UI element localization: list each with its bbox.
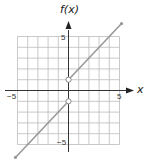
function-graph xyxy=(0,0,151,164)
axes xyxy=(5,21,134,152)
y-tick-min: −5 xyxy=(57,139,66,147)
function-line-left xyxy=(15,101,68,157)
x-tick-min: −5 xyxy=(7,93,16,101)
y-tick-max: 5 xyxy=(61,34,65,42)
x-axis-arrow-icon xyxy=(126,88,134,94)
line-end-arrow-icon xyxy=(14,156,17,159)
y-axis-arrow-icon xyxy=(66,21,72,29)
open-circle-endpoint-icon xyxy=(66,99,71,104)
x-axis-title: x xyxy=(137,84,144,95)
line-end-arrow-icon xyxy=(120,22,123,25)
function-line-right xyxy=(69,24,122,80)
open-circle-endpoint-icon xyxy=(66,77,71,82)
y-axis-title: f(x) xyxy=(60,4,79,15)
x-tick-max: 5 xyxy=(117,93,121,101)
